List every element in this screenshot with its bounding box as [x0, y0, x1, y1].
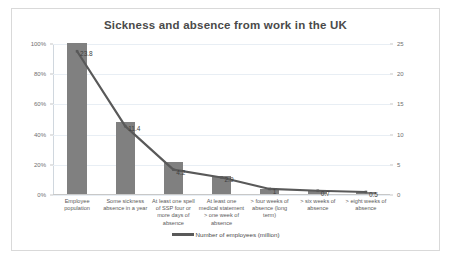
line-marker: [365, 191, 368, 194]
legend-line-swatch: [172, 233, 194, 236]
left-axis-tick-label: 0%: [16, 192, 46, 198]
line-marker: [316, 189, 319, 192]
line-markers: [76, 50, 367, 193]
data-point-label: 0.7: [321, 189, 330, 196]
right-axis-tick-label: 15: [397, 101, 423, 107]
right-tick: [390, 195, 393, 196]
line-marker: [220, 176, 223, 179]
right-tick: [390, 134, 393, 135]
line-series: [53, 44, 390, 195]
right-tick: [390, 164, 393, 165]
chart-legend: Number of employees (million): [12, 231, 439, 238]
right-axis-tick-label: 10: [397, 132, 423, 138]
data-point-label: 0.5: [369, 190, 378, 197]
right-tick: [390, 74, 393, 75]
right-axis-tick-label: 5: [397, 162, 423, 168]
line-marker: [124, 125, 127, 128]
left-axis-tick-label: 100%: [16, 41, 46, 47]
right-axis-tick-label: 20: [397, 71, 423, 77]
chart-container: Sickness and absence from work in the UK…: [11, 8, 440, 251]
line-path: [77, 51, 366, 192]
data-point-label: 23.8: [80, 50, 93, 57]
left-axis-tick-label: 20%: [16, 162, 46, 168]
gridline: [53, 195, 390, 196]
legend-label: Number of employees (million): [196, 231, 280, 238]
data-point-label: 1: [273, 187, 277, 194]
left-axis-tick-label: 60%: [16, 101, 46, 107]
right-tick: [390, 104, 393, 105]
chart-title: Sickness and absence from work in the UK: [12, 19, 439, 31]
data-point-label: 4.2: [176, 168, 185, 175]
right-axis-tick-label: 25: [397, 41, 423, 47]
left-axis-tick-label: 40%: [16, 132, 46, 138]
line-marker: [76, 50, 79, 53]
right-tick: [390, 44, 393, 45]
plot-area: 23.811.44.22.910.70.5: [53, 44, 390, 195]
left-axis-tick-label: 80%: [16, 71, 46, 77]
line-marker: [172, 168, 175, 171]
data-point-label: 2.9: [225, 176, 234, 183]
line-marker: [268, 188, 271, 191]
right-axis-tick-label: 0: [397, 192, 423, 198]
data-point-label: 11.4: [128, 125, 140, 132]
